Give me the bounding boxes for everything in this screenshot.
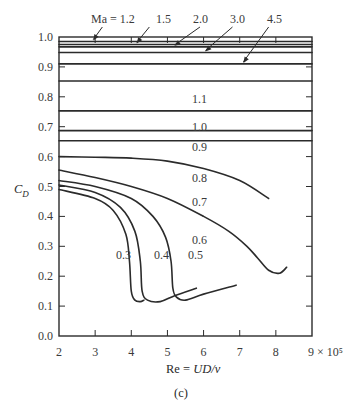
label-ma-4-5: 4.5 xyxy=(267,12,282,26)
y-tick-label: 0.3 xyxy=(38,239,53,253)
label-ma-1-5: 1.5 xyxy=(156,12,171,26)
label-ma-0-9: 0.9 xyxy=(192,140,207,154)
y-tick-label: 0.0 xyxy=(38,329,53,343)
label-ma-0-8: 0.8 xyxy=(192,171,207,185)
label-ma-0-6: 0.6 xyxy=(192,233,207,247)
figure-caption: (c) xyxy=(174,386,188,400)
label-ma-0-4: 0.4 xyxy=(154,248,169,262)
y-tick-label: 0.4 xyxy=(38,209,53,223)
y-tick-label: 0.9 xyxy=(38,60,53,74)
label-ma-1-0: 1.0 xyxy=(192,120,207,134)
y-tick-label: 0.7 xyxy=(38,120,53,134)
label-ma-0-5: 0.5 xyxy=(188,248,203,262)
x-tick-label: 9 × 10⁵ xyxy=(308,345,343,359)
label-ma-2-0: 2.0 xyxy=(193,12,208,26)
x-axis-title: Re = UD/ν xyxy=(166,362,221,376)
label-ma-0-3: 0.3 xyxy=(116,248,131,262)
y-tick-label: 0.6 xyxy=(38,150,53,164)
y-tick-label: 0.5 xyxy=(38,180,53,194)
x-tick-label: 5 xyxy=(164,345,170,359)
x-tick-label: 7 xyxy=(237,345,243,359)
x-tick-label: 2 xyxy=(56,345,62,359)
y-tick-label: 0.8 xyxy=(38,90,53,104)
curve-ma-0-3 xyxy=(59,189,144,301)
x-tick-label: 3 xyxy=(92,345,98,359)
y-tick-label: 1.0 xyxy=(38,30,53,44)
x-tick-label: 4 xyxy=(128,345,134,359)
label-ma-1-2: Ma = 1.2 xyxy=(91,12,135,26)
drag-coefficient-chart: 23456789 × 10⁵0.00.10.20.30.40.50.60.70.… xyxy=(0,0,356,402)
y-axis-title: CD xyxy=(14,182,29,199)
label-ma-1-1: 1.1 xyxy=(192,92,207,106)
label-ma-3-0: 3.0 xyxy=(230,12,245,26)
mach-curves xyxy=(59,41,312,301)
y-tick-label: 0.1 xyxy=(38,299,53,313)
x-tick-label: 6 xyxy=(201,345,207,359)
label-ma-0-7: 0.7 xyxy=(192,195,207,209)
x-tick-label: 8 xyxy=(273,345,279,359)
curve-ma-0-5 xyxy=(59,181,236,301)
curve-ma-0-7 xyxy=(59,157,269,199)
y-tick-label: 0.2 xyxy=(38,269,53,283)
